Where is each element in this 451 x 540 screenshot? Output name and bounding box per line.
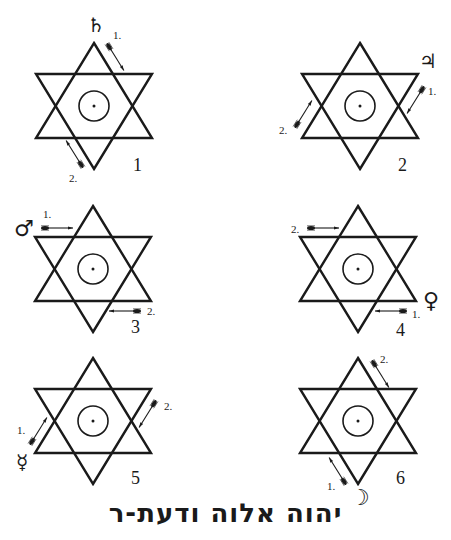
hebrew-caption: יהוה אלוה ודעת-ר — [0, 498, 451, 528]
step-1-label: 1. — [113, 29, 122, 41]
mars-icon: ♂ — [14, 216, 34, 241]
hexagram-shape — [35, 358, 151, 484]
hexagram-number: 4 — [396, 320, 405, 340]
venus-icon: ♀ — [423, 288, 439, 313]
hexagram-number: 3 — [131, 317, 140, 337]
step-2-label: 2. — [380, 353, 389, 365]
jupiter-icon: ♃ — [419, 49, 437, 73]
step-2-label: 2. — [279, 124, 288, 136]
hexagram-3: ♂ 1. 2. 3 — [14, 206, 156, 337]
hexagram-shape — [302, 43, 418, 169]
hexagram-shape — [300, 206, 416, 332]
step-2-label: 2. — [291, 223, 300, 235]
hexagram-6: 2. 1. ☽ 6 — [300, 353, 416, 510]
step-2-label: 2. — [164, 400, 173, 412]
arrow-2-icon — [64, 139, 85, 168]
hexagram-number: 5 — [131, 468, 140, 488]
arrow-1-icon — [41, 226, 73, 230]
mercury-icon: ☿ — [16, 450, 28, 474]
hexagram-1: ♄ 1. 2. 1 — [36, 13, 152, 184]
arrow-1-icon — [28, 416, 49, 445]
step-2-label: 2. — [147, 305, 156, 317]
hexagram-shape — [36, 43, 152, 169]
arrow-1-icon — [375, 309, 407, 313]
arrow-2-icon — [137, 399, 158, 428]
hexagram-number: 1 — [133, 155, 142, 175]
step-1-label: 1. — [412, 308, 421, 320]
hexagram-number: 2 — [398, 155, 407, 175]
step-1-label: 1. — [43, 208, 52, 220]
step-1-label: 1. — [428, 85, 437, 97]
hexagram-number: 6 — [396, 468, 405, 488]
hexagram-shape — [300, 358, 416, 484]
hexagram-4: 2. 1. ♀ 4 — [291, 206, 439, 340]
saturn-icon: ♄ — [87, 13, 105, 37]
step-1-label: 1. — [327, 480, 336, 492]
hexagram-2: ♃ 1. 2. 2 — [279, 43, 437, 175]
hexagram-5: 1. ☿ 2. 5 — [16, 358, 173, 488]
arrow-2-icon — [109, 309, 141, 313]
arrow-2-icon — [307, 226, 339, 230]
step-2-label: 2. — [69, 172, 78, 184]
step-1-label: 1. — [17, 424, 26, 436]
